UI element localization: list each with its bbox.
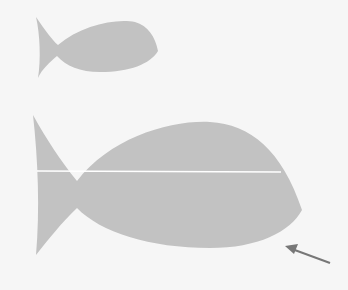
fish-diagram [0, 0, 348, 290]
cut-line [37, 171, 281, 172]
small-fish-shape [36, 17, 158, 78]
arrow-icon [285, 244, 330, 263]
large-fish-shape [33, 115, 302, 255]
